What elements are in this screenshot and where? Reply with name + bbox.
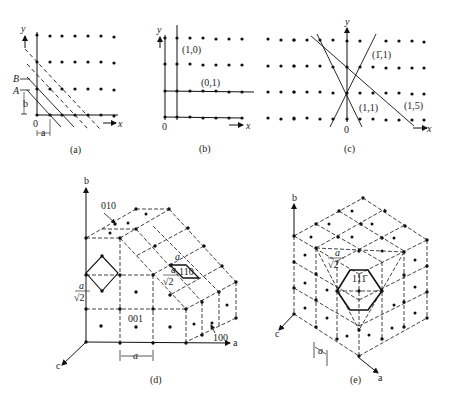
c-axis: [62, 342, 86, 365]
caption-c: (c): [344, 143, 355, 155]
dim-a-top: a: [175, 251, 180, 262]
dim-a-bottom: a: [133, 350, 138, 361]
line-label-1-0: (1,0): [182, 44, 201, 56]
010-pointer-icon: [104, 213, 115, 223]
lattice-points: [35, 33, 115, 117]
label-b: b: [23, 98, 28, 109]
c-axis-label: c: [56, 360, 61, 371]
b-axis-label: b: [84, 175, 89, 186]
panel-a: y x 0 B A b a (a): [12, 23, 123, 156]
dim-a-bottom: a: [318, 345, 323, 356]
plane-label-111bar: 111̄: [352, 273, 368, 284]
y-axis-label: y: [156, 24, 162, 35]
label-a: a: [41, 127, 46, 138]
panel-b: y x 0 (1,0) (0,1) (b): [156, 24, 296, 155]
plane-010-square: [86, 256, 118, 291]
c-axis: [279, 314, 294, 330]
y-axis-label: y: [20, 23, 26, 34]
origin-label: 0: [33, 118, 38, 129]
dim-a-root2-num: a: [171, 264, 176, 275]
dim-a-root2-den: √2: [328, 259, 339, 270]
line-label-1-1: (1,1): [359, 102, 378, 114]
front-face-grid: [86, 209, 236, 342]
a-axis-label: a: [378, 372, 383, 383]
plane-label-110: 110: [179, 266, 194, 277]
dim-a-root2-num: a: [335, 247, 340, 258]
caption-a: (a): [70, 144, 81, 156]
panel-d: b a c 010 110 001 100 a a √2 a √2 a (d): [56, 175, 238, 386]
panel-c: y x 0 (1̄,1) (1,1) (1,5) (c): [292, 16, 432, 155]
plane-label-100: 100: [213, 332, 228, 343]
label-B: B: [13, 73, 19, 84]
a-axis: [86, 342, 230, 343]
panel-e: b c a 111̄ a √2 a (e): [275, 192, 429, 386]
plane-lines: [311, 34, 414, 127]
caption-d: (d): [150, 374, 162, 386]
x-axis-label: x: [426, 123, 432, 134]
caption-b: (b): [199, 143, 211, 155]
lattice-points: [84, 207, 237, 344]
label-A: A: [12, 85, 20, 96]
y-axis-label: y: [344, 16, 350, 27]
x-axis-label: x: [117, 118, 123, 129]
b-axis-label: b: [292, 192, 297, 203]
lattice-figure: y x 0 B A b a (a) y x 0 (1,0) (0,1) (b): [0, 0, 449, 401]
line-label-1bar-1: (1̄,1): [372, 49, 391, 61]
line-label-1-5: (1,5): [404, 100, 423, 112]
c-axis-label: c: [275, 328, 280, 339]
dim-left-den: √2: [74, 292, 85, 303]
caption-e: (e): [350, 374, 361, 386]
dim-left-num: a: [79, 280, 84, 291]
x-axis-label: x: [245, 120, 251, 131]
origin-label: 0: [344, 124, 349, 135]
dim-a-root2-den: √2: [163, 276, 174, 287]
a-axis: [358, 357, 378, 373]
plane-label-010: 010: [101, 200, 116, 211]
a-axis-label: a: [233, 337, 238, 348]
line-label-0-1: (0,1): [201, 77, 220, 89]
plane-label-001: 001: [128, 313, 143, 324]
origin-label: 0: [162, 121, 167, 132]
